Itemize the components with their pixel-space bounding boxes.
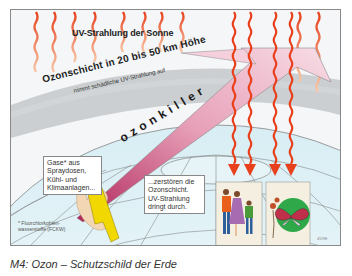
destroy-callout: ...zerstören die Ozonschicht. UV-Strahlu… xyxy=(144,175,205,214)
figure-caption: M4: Ozon – Schutzschild der Erde xyxy=(10,258,177,270)
footnote: * Fluorchlorkohlen- wasserstoffe (FCKW) xyxy=(18,220,65,232)
gases-callout: Gase* aus Spraydosen, Kühl- und Klimaanl… xyxy=(43,156,102,195)
footnote-line: wasserstoffe (FCKW) xyxy=(18,226,65,232)
destroy-line: UV-Strahlung xyxy=(148,195,201,203)
nature-picture xyxy=(266,182,310,245)
gases-line: Gase* aus xyxy=(47,159,98,167)
gases-line: Klimaanlagen... xyxy=(47,184,98,192)
gases-line: Kühl- und xyxy=(47,176,98,184)
destroy-line: ...zerstören die xyxy=(148,178,201,186)
destroy-line: dringt durch. xyxy=(148,203,201,211)
uv-radiation-label: UV-Strahlung der Sonne xyxy=(72,28,173,38)
gases-line: Spraydosen, xyxy=(47,167,98,175)
family-picture xyxy=(216,182,262,245)
figure-code: 45/9E xyxy=(317,236,327,241)
diagram-frame: UV-Strahlung der Sonne Ozonschicht in 20… xyxy=(10,9,341,246)
destroy-line: Ozonschicht. xyxy=(148,186,201,194)
